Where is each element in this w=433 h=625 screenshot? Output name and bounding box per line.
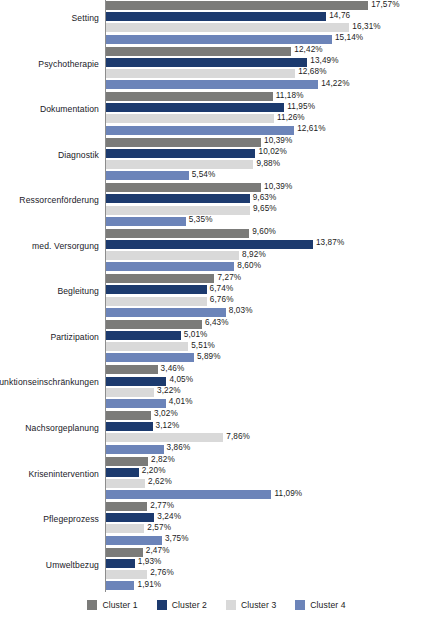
bar-1 — [106, 92, 273, 101]
legend-item[interactable]: Cluster 3 — [226, 600, 276, 610]
bar-2 — [106, 422, 153, 431]
bar-3 — [106, 206, 250, 215]
bar-value-label: 5,89% — [197, 352, 221, 361]
bar-value-label: 12,42% — [294, 45, 322, 54]
bar-row: 14,22% — [106, 80, 426, 89]
bar-value-label: 13,49% — [310, 56, 338, 65]
bar-row: 11,09% — [106, 490, 426, 499]
bar-4 — [106, 217, 186, 226]
bar-row: 3,22% — [106, 388, 426, 397]
bar-3 — [106, 69, 295, 78]
legend-item[interactable]: Cluster 4 — [295, 600, 345, 610]
bar-row: 11,26% — [106, 114, 426, 123]
bar-row: 13,49% — [106, 58, 426, 67]
bar-value-label: 5,51% — [191, 341, 215, 350]
bar-value-label: 3,75% — [165, 534, 189, 543]
bar-value-label: 2,82% — [151, 455, 175, 464]
bar-2 — [106, 559, 135, 568]
bar-value-label: 2,77% — [150, 501, 174, 510]
bar-row: 16,31% — [106, 23, 426, 32]
legend-swatch-icon — [226, 600, 236, 610]
bar-2 — [106, 285, 207, 294]
bar-value-label: 2,57% — [147, 523, 171, 532]
bar-value-label: 1,91% — [137, 580, 161, 589]
bar-value-label: 9,60% — [252, 227, 276, 236]
category-label: Setting — [0, 13, 99, 24]
bar-value-label: 17,57% — [371, 0, 399, 9]
bar-value-label: 14,76 — [329, 11, 350, 20]
bar-value-label: 1,93% — [138, 557, 162, 566]
bar-row: 2,82% — [106, 457, 426, 466]
bar-row: 12,61% — [106, 126, 426, 135]
bar-value-label: 3,22% — [157, 386, 181, 395]
bar-1 — [106, 457, 148, 466]
bar-4 — [106, 262, 234, 271]
legend-label: Cluster 2 — [172, 600, 207, 610]
bar-row: 3,02% — [106, 411, 426, 420]
bar-2 — [106, 194, 250, 203]
category-label: Ressorcenförderung — [0, 195, 99, 206]
bar-3 — [106, 570, 147, 579]
bar-row: 2,47% — [106, 548, 426, 557]
bar-4 — [106, 308, 226, 317]
bar-group: Begleitung7,27%6,74%6,76%8,03% — [0, 274, 433, 320]
bar-value-label: 11,26% — [277, 113, 305, 122]
category-label: med. Versorgung — [0, 241, 99, 252]
bar-1 — [106, 274, 214, 283]
bar-row: 9,63% — [106, 194, 426, 203]
bar-group: Dokumentation11,18%11,95%11,26%12,61% — [0, 92, 433, 138]
legend-label: Cluster 1 — [102, 600, 137, 610]
bar-3 — [106, 23, 349, 32]
legend-item[interactable]: Cluster 1 — [87, 600, 137, 610]
bar-group: Funktionseinschränkungen3,46%4,05%3,22%4… — [0, 365, 433, 411]
bar-value-label: 2,62% — [148, 477, 172, 486]
bar-2 — [106, 58, 307, 67]
bar-value-label: 12,61% — [297, 124, 325, 133]
bar-3 — [106, 524, 144, 533]
plot-area: Setting17,57%14,7616,31%15,14%Psychother… — [0, 0, 433, 594]
bar-value-label: 7,86% — [226, 432, 250, 441]
bar-1 — [106, 1, 368, 10]
bar-row: 3,75% — [106, 536, 426, 545]
bar-row: 12,42% — [106, 47, 426, 56]
chart-legend: Cluster 1Cluster 2Cluster 3Cluster 4 — [0, 600, 433, 610]
bar-1 — [106, 365, 158, 374]
bar-1 — [106, 548, 143, 557]
bar-2 — [106, 240, 313, 249]
bar-4 — [106, 399, 166, 408]
bar-row: 12,68% — [106, 69, 426, 78]
category-label: Diagnostik — [0, 150, 99, 161]
bar-2 — [106, 149, 255, 158]
bar-value-label: 10,39% — [264, 136, 292, 145]
bar-value-label: 8,60% — [237, 261, 261, 270]
bar-2 — [106, 468, 139, 477]
bar-value-label: 2,20% — [142, 466, 166, 475]
bar-row: 15,14% — [106, 35, 426, 44]
category-label: Dokumentation — [0, 104, 99, 115]
bar-row: 8,03% — [106, 308, 426, 317]
bar-row: 5,54% — [106, 171, 426, 180]
bar-value-label: 11,09% — [274, 489, 302, 498]
bar-row: 11,18% — [106, 92, 426, 101]
bar-row: 3,86% — [106, 445, 426, 454]
bar-1 — [106, 502, 147, 511]
category-label: Krisenintervention — [0, 469, 99, 480]
bar-value-label: 11,18% — [276, 91, 304, 100]
bar-group: Krisenintervention2,82%2,20%2,62%11,09% — [0, 457, 433, 503]
category-label: Psychotherapie — [0, 59, 99, 70]
legend-label: Cluster 3 — [241, 600, 276, 610]
bar-row: 9,60% — [106, 229, 426, 238]
bar-row: 5,01% — [106, 331, 426, 340]
bar-row: 6,74% — [106, 285, 426, 294]
bar-4 — [106, 445, 164, 454]
bar-value-label: 8,03% — [229, 306, 253, 315]
bar-value-label: 2,47% — [146, 546, 170, 555]
bar-value-label: 5,35% — [189, 215, 213, 224]
bar-1 — [106, 47, 291, 56]
bar-row: 6,76% — [106, 297, 426, 306]
bar-row: 2,57% — [106, 524, 426, 533]
bar-value-label: 7,27% — [217, 273, 241, 282]
bar-4 — [106, 353, 194, 362]
legend-item[interactable]: Cluster 2 — [157, 600, 207, 610]
bar-row: 5,51% — [106, 342, 426, 351]
